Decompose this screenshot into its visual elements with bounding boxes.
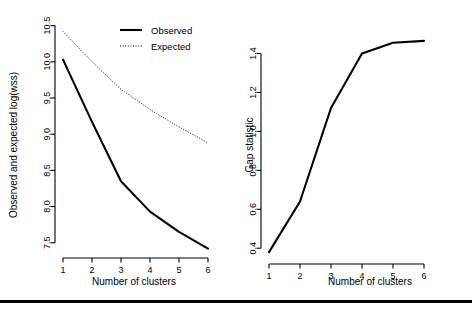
x-tick-label: 6 [421, 271, 426, 281]
x-tick-label: 5 [176, 265, 181, 275]
left-y-axis-title: Observed and expected log(wss) [8, 72, 19, 218]
y-tick-label: 9.0 [42, 128, 52, 141]
legend-expected-label: Expected [151, 41, 191, 52]
right-panel-gap-statistic: 0.40.60.81.01.21.4 123456 Gap statistic … [236, 0, 472, 290]
y-tick-label: 9.5 [42, 92, 52, 105]
x-tick-label: 6 [205, 265, 210, 275]
y-tick-label: 8.0 [42, 200, 52, 213]
gap-statistic-figure: 7.58.08.59.09.510.010.5 123456 Observed … [0, 0, 472, 314]
y-tick-label: 8.5 [42, 164, 52, 177]
legend-observed-label: Observed [151, 25, 192, 36]
y-tick-label: 7.5 [42, 237, 52, 250]
left-x-tick-group: 123456 [60, 258, 210, 275]
footer-rule [0, 300, 472, 303]
x-tick-label: 4 [147, 265, 152, 275]
left-y-tick-group: 7.58.08.59.09.510.010.5 [42, 17, 55, 249]
y-tick-label: 1.4 [248, 47, 258, 60]
right-y-axis-title: Gap statistic [244, 117, 255, 172]
observed-series-line [63, 60, 208, 249]
y-tick-label: 0.4 [248, 242, 258, 255]
left-x-axis-title: Number of clusters [92, 276, 176, 287]
x-tick-label: 2 [89, 265, 94, 275]
x-tick-label: 3 [118, 265, 123, 275]
y-tick-label: 10.0 [42, 53, 52, 71]
right-panel-plot: 0.40.60.81.01.21.4 123456 Gap statistic … [236, 0, 472, 290]
y-tick-label: 1.2 [248, 86, 258, 99]
gap-statistic-series-line [269, 41, 424, 252]
legend: Observed Expected [120, 25, 192, 52]
y-tick-label: 0.6 [248, 203, 258, 216]
x-tick-label: 1 [60, 265, 65, 275]
right-x-axis-title: Number of clusters [328, 276, 412, 287]
y-tick-label: 10.5 [42, 17, 52, 35]
x-tick-label: 1 [266, 271, 271, 281]
left-panel-observed-expected: 7.58.08.59.09.510.010.5 123456 Observed … [0, 0, 236, 290]
left-panel-plot: 7.58.08.59.09.510.010.5 123456 Observed … [0, 0, 236, 290]
x-tick-label: 2 [297, 271, 302, 281]
